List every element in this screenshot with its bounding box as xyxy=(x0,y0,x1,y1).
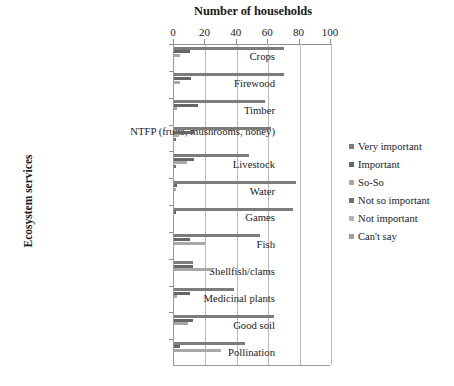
chart-title: Number of households xyxy=(173,4,333,19)
bar-important xyxy=(174,238,190,241)
category-tick xyxy=(169,232,173,233)
category-tick xyxy=(169,151,173,152)
bar-very-important xyxy=(174,73,284,76)
legend-item[interactable]: Important xyxy=(349,157,454,172)
legend-swatch-icon xyxy=(349,216,354,221)
legend-label: Very important xyxy=(358,141,422,152)
bar-very-important xyxy=(174,234,260,237)
bar-important xyxy=(174,265,193,268)
legend-item[interactable]: Not important xyxy=(349,211,454,226)
bar-so-so xyxy=(174,295,177,298)
bar-so-so xyxy=(174,349,221,352)
bar-very-important xyxy=(174,261,193,264)
bar-important xyxy=(174,104,198,107)
category-row: Shellfish/clams xyxy=(0,259,454,286)
bar-very-important xyxy=(174,342,245,345)
bar-so-so xyxy=(174,268,213,271)
category-row: Timber xyxy=(0,98,454,125)
category-row: Good soil xyxy=(0,312,454,339)
category-tick xyxy=(169,339,173,340)
bar-so-so xyxy=(174,322,188,325)
bar-very-important xyxy=(174,127,271,130)
bar-very-important xyxy=(174,154,249,157)
legend-swatch-icon xyxy=(349,234,354,239)
bar-very-important xyxy=(174,315,274,318)
legend: Very importantImportantSo-SoNot so impor… xyxy=(349,139,454,247)
bar-so-so xyxy=(174,134,179,137)
bar-not-so-important xyxy=(174,138,176,141)
category-row: Pollination xyxy=(0,339,454,366)
bar-important xyxy=(174,319,193,322)
category-tick xyxy=(169,312,173,313)
bar-very-important xyxy=(174,100,265,103)
bar-so-so xyxy=(174,188,176,191)
category-tick xyxy=(169,178,173,179)
legend-label: Can't say xyxy=(358,231,397,242)
category-row: Firewood xyxy=(0,71,454,98)
category-tick xyxy=(169,259,173,260)
bar-so-so xyxy=(174,54,180,57)
legend-swatch-icon xyxy=(349,180,354,185)
bar-important xyxy=(174,50,190,53)
legend-label: So-So xyxy=(358,177,384,188)
legend-item[interactable]: Can't say xyxy=(349,229,454,244)
category-tick xyxy=(169,286,173,287)
category-tick xyxy=(169,44,173,45)
bar-very-important xyxy=(174,288,234,291)
category-row: Medicinal plants xyxy=(0,286,454,313)
ecosystem-services-bar-chart: Number of households Ecosystem services … xyxy=(0,0,454,386)
bar-very-important xyxy=(174,47,284,50)
bar-very-important xyxy=(174,181,296,184)
bar-important xyxy=(174,77,191,80)
category-tick xyxy=(169,71,173,72)
legend-item[interactable]: Very important xyxy=(349,139,454,154)
legend-item[interactable]: So-So xyxy=(349,175,454,190)
bar-so-so xyxy=(174,161,187,164)
legend-swatch-icon xyxy=(349,162,354,167)
bar-so-so xyxy=(174,242,205,245)
legend-swatch-icon xyxy=(349,198,354,203)
category-row: Crops xyxy=(0,44,454,71)
category-tick xyxy=(169,98,173,99)
bar-so-so xyxy=(174,107,177,110)
category-tick xyxy=(169,125,173,126)
legend-item[interactable]: Not so important xyxy=(349,193,454,208)
bar-not-so-important xyxy=(174,165,176,168)
bar-important xyxy=(174,292,190,295)
category-label: Water xyxy=(90,186,275,198)
legend-swatch-icon xyxy=(349,144,354,149)
bar-important xyxy=(174,184,177,187)
bar-important xyxy=(174,345,180,348)
bar-important xyxy=(174,158,194,161)
bar-important xyxy=(174,131,194,134)
category-label: Games xyxy=(90,212,275,224)
legend-label: Not important xyxy=(358,213,418,224)
bar-important xyxy=(174,211,176,214)
category-tick xyxy=(169,205,173,206)
bar-very-important xyxy=(174,208,293,211)
legend-label: Not so important xyxy=(358,195,430,206)
bar-so-so xyxy=(174,81,180,84)
legend-label: Important xyxy=(358,159,400,170)
x-tick-label: 100 xyxy=(310,26,350,38)
